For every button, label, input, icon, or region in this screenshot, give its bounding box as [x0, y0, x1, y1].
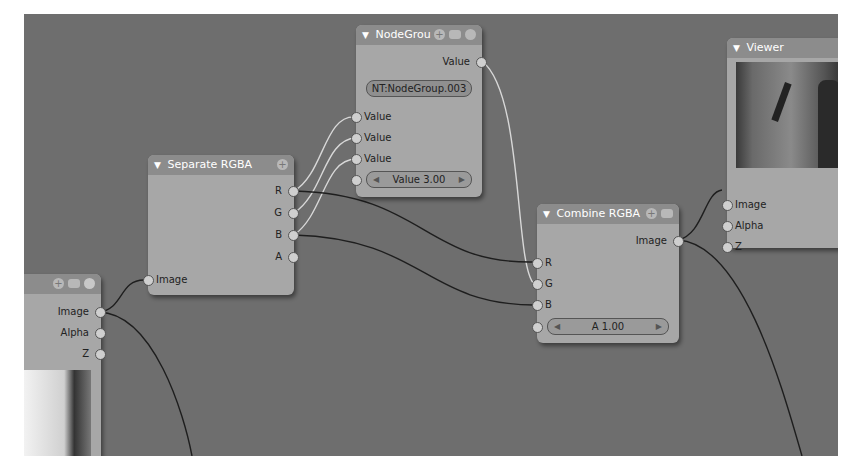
- preview-toggle-icon[interactable]: [661, 209, 673, 218]
- node-editor-canvas[interactable]: ▼ NodeGrou + Value NT:NodeGroup.003 Valu…: [24, 14, 838, 456]
- combine-rgba-node[interactable]: ▼ Combine RGBA + Image R G B ◀ A 1.00 ▶: [537, 204, 679, 343]
- render-icon[interactable]: [84, 278, 95, 289]
- output-socket-alpha[interactable]: [95, 328, 106, 339]
- input-socket-image[interactable]: [722, 200, 733, 211]
- collapse-triangle-icon[interactable]: ▼: [362, 25, 369, 45]
- input-label: Alpha: [735, 220, 763, 232]
- arrow-right-icon[interactable]: ▶: [459, 172, 465, 187]
- plus-icon[interactable]: +: [277, 159, 288, 170]
- input-socket[interactable]: [351, 175, 362, 186]
- group-icon[interactable]: [465, 29, 476, 40]
- node-group[interactable]: ▼ NodeGrou + Value NT:NodeGroup.003 Valu…: [356, 25, 482, 197]
- output-socket-r[interactable]: [288, 186, 299, 197]
- output-label: B: [275, 229, 282, 241]
- preview-toggle-icon[interactable]: [68, 279, 80, 288]
- value-field[interactable]: ◀ Value 3.00 ▶: [366, 171, 472, 188]
- input-label: Image: [156, 274, 187, 286]
- preview-toggle-icon[interactable]: [449, 30, 461, 39]
- output-label: G: [274, 207, 282, 219]
- input-socket-g[interactable]: [532, 279, 543, 290]
- render-preview-image: [24, 370, 91, 456]
- plus-icon[interactable]: +: [53, 278, 64, 289]
- plus-icon[interactable]: +: [646, 208, 657, 219]
- arrow-left-icon[interactable]: ◀: [554, 319, 560, 334]
- node-header[interactable]: ▼ NodeGrou +: [356, 25, 482, 45]
- output-label: Z: [82, 348, 89, 360]
- input-socket-alpha[interactable]: [722, 221, 733, 232]
- viewer-node[interactable]: ▼ Viewer Image Alpha Z: [727, 38, 838, 248]
- input-label: Z: [735, 241, 742, 253]
- output-label: A: [275, 251, 282, 263]
- node-header[interactable]: +: [24, 274, 101, 294]
- input-label: Image: [735, 199, 766, 211]
- input-socket[interactable]: [351, 154, 362, 165]
- input-socket-z[interactable]: [722, 242, 733, 253]
- output-socket-image[interactable]: [95, 307, 106, 318]
- output-socket-image[interactable]: [673, 236, 684, 247]
- collapse-triangle-icon[interactable]: ▼: [543, 204, 550, 224]
- input-socket-a[interactable]: [532, 322, 543, 333]
- input-socket-r[interactable]: [532, 258, 543, 269]
- output-label: Image: [636, 235, 667, 247]
- input-label: G: [545, 278, 553, 290]
- output-socket-b[interactable]: [288, 230, 299, 241]
- input-label: R: [545, 257, 552, 269]
- input-label: Value: [364, 153, 391, 165]
- input-socket-image[interactable]: [143, 275, 154, 286]
- viewer-preview-image: [736, 62, 838, 168]
- alpha-field[interactable]: ◀ A 1.00 ▶: [547, 318, 669, 335]
- node-header[interactable]: ▼ Viewer: [727, 38, 838, 58]
- output-label: Value: [443, 56, 470, 68]
- arrow-left-icon[interactable]: ◀: [373, 172, 379, 187]
- separate-rgba-node[interactable]: ▼ Separate RGBA + R G B A Image: [148, 155, 294, 295]
- output-socket-z[interactable]: [95, 349, 106, 360]
- input-label: B: [545, 299, 552, 311]
- input-socket[interactable]: [351, 112, 362, 123]
- collapse-triangle-icon[interactable]: ▼: [154, 155, 161, 175]
- arrow-right-icon[interactable]: ▶: [656, 319, 662, 334]
- output-socket[interactable]: [476, 57, 487, 68]
- group-name-field[interactable]: NT:NodeGroup.003: [366, 80, 472, 97]
- input-socket[interactable]: [351, 133, 362, 144]
- node-header[interactable]: ▼ Separate RGBA +: [148, 155, 294, 175]
- input-label: Value: [364, 111, 391, 123]
- output-label: R: [275, 185, 282, 197]
- plus-icon[interactable]: +: [434, 29, 445, 40]
- output-socket-g[interactable]: [288, 208, 299, 219]
- input-label: Value: [364, 132, 391, 144]
- input-socket-b[interactable]: [532, 300, 543, 311]
- render-layers-node[interactable]: + Image Alpha Z: [24, 274, 101, 456]
- output-socket-a[interactable]: [288, 252, 299, 263]
- output-label: Alpha: [61, 327, 89, 339]
- output-label: Image: [58, 306, 89, 318]
- node-header[interactable]: ▼ Combine RGBA +: [537, 204, 679, 224]
- collapse-triangle-icon[interactable]: ▼: [733, 38, 740, 58]
